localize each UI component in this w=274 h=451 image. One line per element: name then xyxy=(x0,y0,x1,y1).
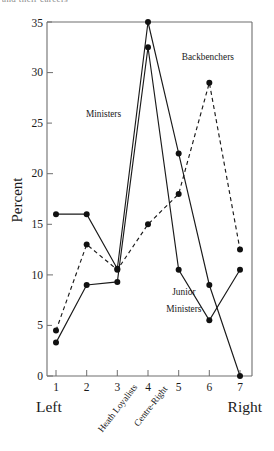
x-tick-label: 4 xyxy=(145,381,151,393)
y-axis-tick-labels: 0 5 10 15 20 25 30 35 xyxy=(32,17,44,383)
data-point xyxy=(176,191,182,197)
y-tick-label: 15 xyxy=(32,218,44,230)
y-tick-label: 30 xyxy=(32,66,44,78)
data-point xyxy=(206,317,212,323)
data-point xyxy=(145,19,151,25)
data-point xyxy=(237,267,243,273)
y-tick-label: 20 xyxy=(32,167,44,179)
x-tick-label: 7 xyxy=(237,381,243,393)
y-axis-ticks xyxy=(47,22,53,376)
data-point xyxy=(53,211,59,217)
series-markers-ministers xyxy=(53,19,243,379)
figure-container: and their careers 0 5 10 15 20 25 xyxy=(0,0,274,451)
line-chart-svg: 0 5 10 15 20 25 30 35 Percent 1 2 3 4 xyxy=(0,0,274,451)
annotation-junior-line2: Ministers xyxy=(166,304,202,314)
series-line-ministers xyxy=(56,22,240,376)
x-tick-label: 1 xyxy=(53,381,59,393)
x-axis-right-label: Right xyxy=(228,398,263,415)
data-point xyxy=(84,211,90,217)
data-point xyxy=(176,267,182,273)
x-tick-label: 6 xyxy=(206,381,212,393)
data-point xyxy=(145,44,151,50)
x-axis-ticks xyxy=(56,370,240,376)
data-point xyxy=(206,282,212,288)
x-axis-tick-labels: 1 2 3 4 5 6 7 xyxy=(53,381,243,393)
annotation-backbenchers: Backbenchers xyxy=(182,52,235,62)
y-tick-label: 0 xyxy=(37,370,43,382)
data-point xyxy=(206,80,212,86)
x-tick-label: 5 xyxy=(176,381,182,393)
plot-frame xyxy=(47,22,252,376)
y-tick-label: 35 xyxy=(32,17,44,29)
data-point xyxy=(114,267,120,273)
y-tick-label: 10 xyxy=(32,269,44,281)
data-point xyxy=(53,340,59,346)
x-tick-label: 2 xyxy=(84,381,90,393)
data-point xyxy=(176,150,182,156)
y-tick-label: 5 xyxy=(37,319,43,331)
x-axis-left-label: Left xyxy=(36,398,63,415)
annotation-junior-line1: Junior xyxy=(172,287,196,297)
data-point xyxy=(84,282,90,288)
y-tick-label: 25 xyxy=(32,117,44,129)
x-tick-label: 3 xyxy=(114,381,120,393)
data-point xyxy=(114,279,120,285)
y-axis-title: Percent xyxy=(9,177,25,223)
annotation-ministers: Ministers xyxy=(86,109,122,119)
data-point xyxy=(84,242,90,248)
data-point xyxy=(237,247,243,253)
data-point xyxy=(237,373,243,379)
series-line-junior-ministers xyxy=(56,47,240,342)
data-point xyxy=(53,327,59,333)
data-point xyxy=(145,221,151,227)
